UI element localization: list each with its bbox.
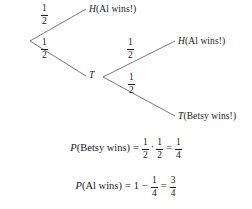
branch-line-t-to-t: [103, 77, 175, 116]
fraction-denominator: 2: [41, 17, 48, 27]
branch-line-root-to-t: [30, 41, 86, 76]
fraction-denominator: 2: [156, 151, 163, 161]
fraction-denominator: 4: [170, 189, 177, 199]
fraction-denominator: 2: [128, 86, 135, 96]
fraction-numerator: 1: [142, 138, 149, 148]
outcome-text: (Al wins!): [185, 36, 225, 46]
fraction-one-half: 1 2: [41, 4, 48, 26]
fraction-numerator: 1: [41, 38, 48, 48]
equals-sign: =: [122, 180, 134, 191]
fraction-denominator: 2: [127, 51, 134, 61]
minus-sign: −: [139, 180, 151, 191]
equation-line: P(Al wins)=1−14=34: [0, 176, 252, 198]
outcome-label-h-al-wins-top: H(Al wins!): [89, 5, 136, 15]
outcome-label-t-betsy-wins: T(Betsy wins!): [178, 112, 236, 122]
fraction-result: 14: [175, 138, 182, 160]
fraction-numerator: 1: [128, 73, 135, 83]
fraction-numerator: 3: [170, 176, 177, 186]
fraction-term-2: 14: [151, 176, 158, 198]
probability-argument: (Betsy wins): [77, 142, 130, 153]
probability-label-t-to-t: 1 2: [128, 73, 135, 95]
outcome-text: (Betsy wins!): [183, 111, 236, 121]
fraction-one-half: 1 2: [128, 73, 135, 95]
probability-label-t-to-h: 1 2: [127, 38, 134, 60]
fraction-denominator: 4: [175, 151, 182, 161]
fraction-term-2: 12: [156, 138, 163, 160]
outcome-symbol: H: [89, 4, 96, 14]
fraction-numerator: 1: [156, 138, 163, 148]
equation-line: P(Betsy wins)=12·12=14: [0, 138, 252, 160]
fraction-result: 34: [170, 176, 177, 198]
fraction-one-half: 1 2: [127, 38, 134, 60]
branch-line-root-to-h: [30, 9, 86, 41]
equals-sign: =: [130, 142, 142, 153]
probability-label-root-to-h: 1 2: [41, 4, 48, 26]
branch-line-t-to-h: [103, 41, 175, 77]
fraction-numerator: 1: [151, 176, 158, 186]
outcome-symbol: T: [89, 70, 94, 80]
outcome-symbol: H: [178, 36, 185, 46]
equation-betsy-wins: P(Betsy wins)=12·12=14: [0, 138, 252, 160]
fraction-denominator: 2: [142, 151, 149, 161]
fraction-one-half: 1 2: [41, 38, 48, 60]
fraction-term-1: 12: [142, 138, 149, 160]
probability-tree-figure: 1 2 1 2 1 2 1 2 H(Al wins!) T: [0, 0, 252, 209]
probability-argument: (Al wins): [82, 180, 122, 191]
node-label-t: T: [89, 71, 94, 81]
equals-sign-2: =: [158, 180, 170, 191]
fraction-numerator: 1: [175, 138, 182, 148]
fraction-denominator: 4: [151, 189, 158, 199]
fraction-numerator: 1: [127, 38, 134, 48]
equals-sign-2: =: [163, 142, 175, 153]
outcome-text: (Al wins!): [96, 4, 136, 14]
multiplication-dot: ·: [149, 141, 157, 152]
equation-al-wins: P(Al wins)=1−14=34: [0, 176, 252, 198]
outcome-label-h-al-wins-right: H(Al wins!): [178, 37, 225, 47]
fraction-denominator: 2: [41, 51, 48, 61]
probability-label-root-to-t: 1 2: [41, 38, 48, 60]
fraction-numerator: 1: [41, 4, 48, 14]
